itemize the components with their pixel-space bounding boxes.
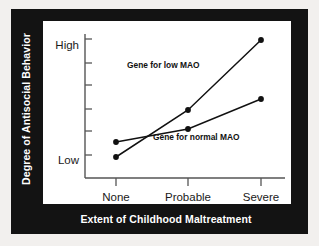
data-point xyxy=(113,154,119,160)
y-tick-label-low: Low xyxy=(58,154,80,166)
series-label-normal-mao: Gene for normal MAO xyxy=(153,132,240,142)
y-axis-title-text: Degree of Antisocial Behavior xyxy=(20,33,32,185)
x-axis-ticks xyxy=(116,178,261,186)
x-axis-title-text: Extent of Childhood Maltreatment xyxy=(80,213,251,225)
data-point xyxy=(185,107,191,113)
x-tick-label-probable: Probable xyxy=(165,191,211,203)
figure-container: Degree of Antisocial Behavior Extent of … xyxy=(0,0,319,246)
x-axis-title: Extent of Childhood Maltreatment xyxy=(40,208,292,230)
data-point xyxy=(113,139,119,145)
x-tick-label-none: None xyxy=(102,191,130,203)
data-point xyxy=(258,96,264,102)
plot-panel: High Low None Probable Severe Gene for xyxy=(43,21,291,204)
y-axis-title: Degree of Antisocial Behavior xyxy=(13,14,39,204)
x-tick-label-severe: Severe xyxy=(243,191,279,203)
data-point xyxy=(258,37,264,43)
series-label-low-mao: Gene for low MAO xyxy=(127,60,200,70)
y-tick-label-high: High xyxy=(55,39,79,51)
chart-svg: High Low None Probable Severe Gene for xyxy=(43,21,291,204)
y-axis-ticks xyxy=(85,39,92,155)
